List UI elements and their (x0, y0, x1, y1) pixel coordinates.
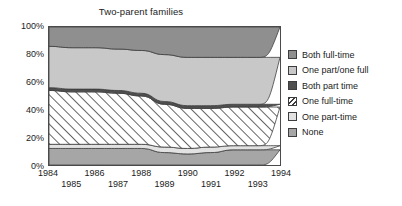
legend-label-both-part-time: Both part time (302, 81, 358, 91)
legend-swatch-one-part-one-full (288, 66, 297, 75)
legend-item-one-part-time[interactable]: One part-time (288, 109, 400, 125)
x-axis-tick: 1988 (131, 168, 151, 178)
legend-item-both-full-time[interactable]: Both full-time (288, 47, 400, 63)
legend-item-both-part-time[interactable]: Both part time (288, 78, 400, 94)
y-axis-tick: 20% (26, 133, 44, 143)
plot-area (48, 26, 281, 166)
x-axis-tick: 1985 (61, 179, 81, 189)
y-axis-tick: 100% (21, 21, 44, 31)
x-axis-tick: 1984 (38, 168, 58, 178)
x-axis-tick: 1993 (248, 179, 268, 189)
chart-figure: Two-parent families 0%20%40%60%80%100% 1… (0, 0, 402, 206)
legend-swatch-both-part-time (288, 81, 297, 90)
x-axis-tick: 1994 (271, 168, 291, 178)
x-axis: 1984198519861987198819891990199119921993… (48, 168, 281, 200)
x-axis-tick: 1991 (201, 179, 221, 189)
y-axis-tick: 60% (26, 77, 44, 87)
legend-label-one-full-time: One full-time (302, 96, 353, 106)
legend-label-one-part-one-full: One part/one full (302, 65, 369, 75)
x-axis-tick: 1987 (108, 179, 128, 189)
x-axis-tick: 1992 (224, 168, 244, 178)
legend-item-one-full-time[interactable]: One full-time (288, 94, 400, 110)
x-axis-tick: 1986 (85, 168, 105, 178)
chart-title: Two-parent families (0, 6, 282, 17)
legend-swatch-both-full-time (288, 50, 297, 59)
chart-legend: Both full-timeOne part/one fullBoth part… (288, 47, 400, 140)
x-axis-tick: 1989 (154, 179, 174, 189)
y-axis-tick: 80% (26, 49, 44, 59)
legend-swatch-none (288, 128, 297, 137)
legend-label-none: None (302, 127, 324, 137)
legend-item-one-part-one-full[interactable]: One part/one full (288, 63, 400, 79)
y-axis-tick: 40% (26, 105, 44, 115)
legend-item-none[interactable]: None (288, 125, 400, 141)
stacked-area-plot (49, 27, 280, 165)
y-axis: 0%20%40%60%80%100% (0, 26, 44, 166)
x-axis-tick: 1990 (178, 168, 198, 178)
legend-swatch-one-full-time (288, 97, 297, 106)
legend-label-one-part-time: One part-time (302, 112, 357, 122)
legend-swatch-one-part-time (288, 112, 297, 121)
legend-label-both-full-time: Both full-time (302, 50, 355, 60)
